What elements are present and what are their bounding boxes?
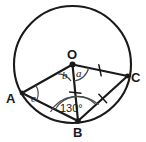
label-vertex-B: B [73, 126, 82, 139]
vertex-dot-B [75, 118, 81, 124]
geometry-diagram-canvas: O A B C a b c 130° [0, 0, 146, 142]
label-vertex-C: C [131, 71, 140, 84]
label-angle-c: c [31, 93, 36, 104]
label-center-O: O [67, 48, 77, 61]
vertex-dot-A [20, 91, 25, 96]
circle-geometry-figure [0, 0, 146, 142]
label-angle-130: 130° [60, 103, 83, 114]
vertex-dot-C [125, 74, 130, 79]
vertex-dot-O [70, 62, 76, 68]
label-vertex-A: A [6, 92, 15, 105]
label-angle-b: b [62, 70, 68, 81]
label-angle-a: a [76, 68, 82, 79]
